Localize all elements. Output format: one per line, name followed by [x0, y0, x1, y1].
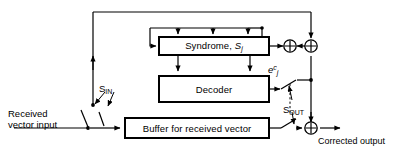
junction-syndrome-feedback — [260, 26, 264, 30]
junction-sin-riser — [91, 103, 95, 107]
block-decoder-label: Decoder — [196, 84, 233, 95]
label-switch-out: SOUT — [283, 104, 304, 117]
junction-received — [86, 126, 90, 130]
block-decoder[interactable]: Decoder — [158, 75, 270, 103]
error-subscript: j — [277, 69, 279, 76]
wire-syndrome-left-feed — [150, 28, 156, 46]
label-error-estimate: ecj — [268, 64, 278, 77]
switch-blade-sin — [81, 110, 88, 127]
junction-upper-switch — [309, 78, 313, 82]
received-line-1: Received — [8, 108, 57, 119]
block-diagram: Syndrome, Sj Decoder Buffer for received… — [0, 0, 404, 150]
block-syndrome-label: Syndrome, Sj — [185, 40, 243, 52]
switch-blade-upper — [281, 80, 296, 89]
block-syndrome[interactable]: Syndrome, Sj — [158, 36, 270, 56]
block-buffer-label: Buffer for received vector — [143, 123, 252, 134]
switch-contact-sin-right — [99, 112, 104, 126]
label-switch-in: SIN — [99, 83, 112, 96]
switch-in-subscript: IN — [105, 88, 112, 95]
received-line-2: vector input — [8, 119, 57, 130]
label-corrected-output: Corrected output — [318, 136, 385, 147]
switch-out-subscript: OUT — [289, 109, 304, 116]
block-buffer[interactable]: Buffer for received vector — [124, 117, 270, 139]
label-received-vector-input: Received vector input — [8, 108, 57, 130]
syndrome-subscript: j — [241, 45, 243, 52]
